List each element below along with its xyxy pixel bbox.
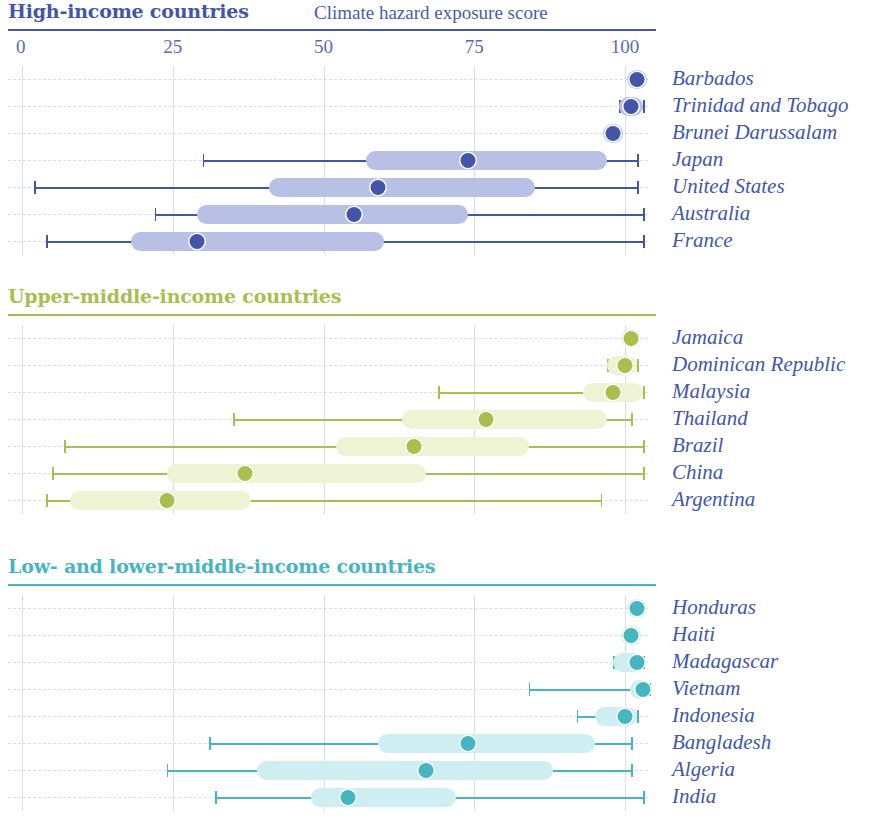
median-marker: [618, 358, 633, 373]
boxplot-row[interactable]: Barbados: [0, 66, 680, 93]
country-label: Thailand: [672, 405, 748, 432]
interquartile-box: [197, 205, 468, 224]
boxplot-row[interactable]: Brunei Darussalam: [0, 120, 680, 147]
boxplot-row[interactable]: Brazil: [0, 433, 680, 460]
whisker-cap-min: [46, 494, 48, 507]
country-label: Malaysia: [672, 378, 750, 405]
row-dashed-guide: [8, 716, 648, 718]
whisker-cap-max: [631, 737, 633, 750]
panel-rule: [8, 314, 656, 316]
whisker-cap-min: [46, 235, 48, 248]
interquartile-box: [167, 464, 426, 483]
whisker-cap-max: [643, 208, 645, 221]
median-marker: [630, 655, 645, 670]
boxplot-row[interactable]: United States: [0, 174, 680, 201]
country-label: Jamaica: [672, 324, 743, 351]
plot-area: JamaicaDominican RepublicMalaysiaThailan…: [0, 325, 680, 514]
country-label: Indonesia: [672, 702, 755, 729]
boxplot-row[interactable]: Haiti: [0, 622, 680, 649]
country-label: Haiti: [672, 621, 715, 648]
country-label: Brunei Darussalam: [672, 119, 837, 146]
boxplot-row[interactable]: Australia: [0, 201, 680, 228]
row-dashed-guide: [8, 608, 648, 610]
axis-tick-labels: 0255075100: [0, 36, 680, 60]
boxplot-row[interactable]: France: [0, 228, 680, 255]
boxplot-row[interactable]: Japan: [0, 147, 680, 174]
panel-header: Low- and lower-middle-income countries: [0, 555, 891, 587]
panel-1: High-income countriesClimate hazard expo…: [0, 0, 891, 32]
axis-tick-25: 25: [163, 36, 182, 58]
panel-header: High-income countriesClimate hazard expo…: [0, 0, 891, 32]
boxplot-row[interactable]: Trinidad and Tobago: [0, 93, 680, 120]
whisker-cap-min: [155, 208, 157, 221]
axis-tick-100: 100: [611, 36, 640, 58]
boxplot-row[interactable]: Jamaica: [0, 325, 680, 352]
country-label: Madagascar: [672, 648, 778, 675]
interquartile-box: [257, 761, 552, 780]
whisker-cap-max: [643, 467, 645, 480]
boxplot-row[interactable]: Bangladesh: [0, 730, 680, 757]
boxplot-row[interactable]: Vietnam: [0, 676, 680, 703]
median-marker: [189, 234, 204, 249]
median-marker: [346, 207, 361, 222]
whisker-cap-min: [215, 791, 217, 804]
whisker-cap-max: [631, 413, 633, 426]
panel-title: Upper-middle-income countries: [8, 285, 341, 307]
interquartile-box: [269, 178, 534, 197]
whisker-cap-min: [438, 386, 440, 399]
country-label: Australia: [672, 200, 750, 227]
median-marker: [605, 385, 620, 400]
median-marker: [461, 153, 476, 168]
median-marker: [624, 331, 639, 346]
median-marker: [636, 682, 651, 697]
boxplot-row[interactable]: Honduras: [0, 595, 680, 622]
plot-area: BarbadosTrinidad and TobagoBrunei Daruss…: [0, 66, 680, 255]
median-marker: [479, 412, 494, 427]
country-label: Dominican Republic: [672, 351, 845, 378]
whisker-cap-max: [637, 154, 639, 167]
whisker-cap-max: [637, 359, 639, 372]
row-dashed-guide: [8, 365, 648, 367]
panel-3: Low- and lower-middle-income countriesHo…: [0, 555, 891, 587]
panel-header: Upper-middle-income countries: [0, 285, 891, 317]
median-marker: [624, 99, 639, 114]
boxplot-row[interactable]: India: [0, 784, 680, 811]
boxplot-row[interactable]: Indonesia: [0, 703, 680, 730]
median-marker: [340, 790, 355, 805]
country-label: United States: [672, 173, 785, 200]
panel-title: Low- and lower-middle-income countries: [8, 555, 435, 577]
country-label: Argentina: [672, 486, 755, 513]
whisker-cap-max: [643, 100, 645, 113]
interquartile-box: [311, 788, 456, 807]
country-label: Honduras: [672, 594, 756, 621]
whisker-cap-min: [52, 467, 54, 480]
boxplot-row[interactable]: Algeria: [0, 757, 680, 784]
boxplot-row[interactable]: China: [0, 460, 680, 487]
median-marker: [238, 466, 253, 481]
boxplot-row[interactable]: Thailand: [0, 406, 680, 433]
median-marker: [605, 126, 620, 141]
whisker-cap-min: [203, 154, 205, 167]
boxplot-row[interactable]: Dominican Republic: [0, 352, 680, 379]
country-label: Barbados: [672, 65, 754, 92]
interquartile-box: [402, 410, 607, 429]
row-dashed-guide: [8, 662, 648, 664]
interquartile-box: [378, 734, 595, 753]
country-label: Trinidad and Tobago: [672, 92, 849, 119]
median-marker: [461, 736, 476, 751]
median-marker: [630, 72, 645, 87]
whisker-cap-max: [637, 181, 639, 194]
whisker-cap-max: [643, 440, 645, 453]
whisker-cap-min: [64, 440, 66, 453]
country-label: India: [672, 783, 716, 810]
boxplot-row[interactable]: Argentina: [0, 487, 680, 514]
panel-rule: [8, 584, 656, 586]
country-label: Algeria: [672, 756, 735, 783]
country-label: Japan: [672, 146, 723, 173]
whisker-cap-max: [643, 386, 645, 399]
interquartile-box: [366, 151, 607, 170]
whisker-cap-min: [529, 683, 531, 696]
axis-tick-50: 50: [314, 36, 333, 58]
boxplot-row[interactable]: Malaysia: [0, 379, 680, 406]
boxplot-row[interactable]: Madagascar: [0, 649, 680, 676]
